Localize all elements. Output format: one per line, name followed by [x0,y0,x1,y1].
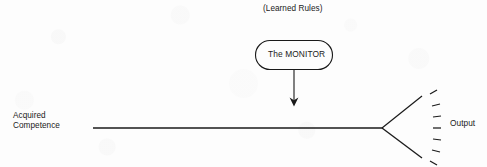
output-label: Output [450,119,475,129]
fan-dash [430,161,437,165]
diagram-canvas: (Learned Rules) The MONITOR Acquired Com… [0,0,487,167]
fan-dash [433,139,441,140]
fan-dash [432,104,440,106]
fan-dash [432,150,440,152]
fan-dash [433,116,441,117]
acquired-competence-label: Acquired Competence [13,111,60,130]
monitor-node-label: The MONITOR [268,50,325,60]
diagram-vector-layer [0,0,487,167]
output-ray-lower [382,128,422,158]
learned-rules-annotation: (Learned Rules) [263,4,322,14]
monitor-to-line-arrow [290,70,299,107]
fan-dash [430,90,437,94]
output-fan-dashes [430,90,441,165]
output-ray-upper [382,96,422,128]
